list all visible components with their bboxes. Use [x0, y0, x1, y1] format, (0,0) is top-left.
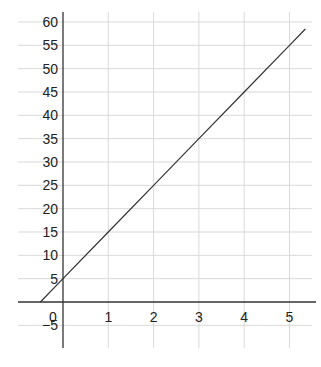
- data-series: [40, 29, 305, 302]
- y-tick-label: 30: [42, 154, 58, 170]
- tick-labels: −551015202530354045505560012345: [42, 14, 294, 333]
- x-tick-label: 5: [286, 309, 294, 325]
- y-tick-label: 25: [42, 177, 58, 193]
- grid-lines: [18, 12, 312, 348]
- x-tick-label: 2: [150, 309, 158, 325]
- y-tick-label: 50: [42, 61, 58, 77]
- y-tick-label: 40: [42, 107, 58, 123]
- x-tick-label: 3: [195, 309, 203, 325]
- series-line: [40, 29, 305, 302]
- x-tick-label: 4: [240, 309, 248, 325]
- y-tick-label: 35: [42, 131, 58, 147]
- y-tick-label: 45: [42, 84, 58, 100]
- y-tick-label: 10: [42, 247, 58, 263]
- y-tick-label: 15: [42, 224, 58, 240]
- y-tick-label: 55: [42, 37, 58, 53]
- x-tick-label: 1: [104, 309, 112, 325]
- y-tick-label: 60: [42, 14, 58, 30]
- y-tick-label: 20: [42, 201, 58, 217]
- axes: [18, 12, 316, 348]
- x-tick-label: 0: [49, 309, 57, 325]
- line-chart: −551015202530354045505560012345: [0, 0, 321, 367]
